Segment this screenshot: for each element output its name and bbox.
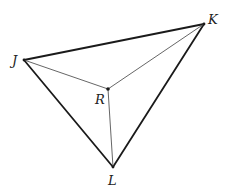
triangle-diagram: J K L R: [0, 0, 225, 192]
label-J: J: [9, 53, 18, 68]
point-L: [112, 166, 115, 169]
segment-LJ: [24, 60, 113, 167]
point-R: [106, 87, 110, 91]
label-K: K: [207, 12, 219, 27]
point-K: [203, 23, 206, 26]
label-L: L: [107, 173, 117, 188]
segment-KL: [113, 24, 204, 167]
label-R: R: [94, 92, 105, 107]
segment-RL: [108, 89, 113, 167]
point-J: [23, 59, 26, 62]
